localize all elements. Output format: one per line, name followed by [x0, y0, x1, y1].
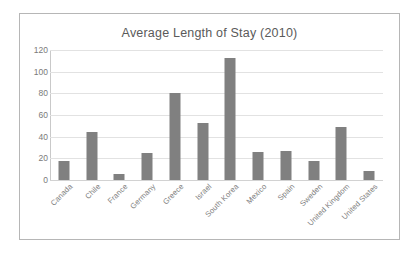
gridline — [50, 180, 383, 181]
bar[interactable] — [225, 58, 236, 180]
bar-slot — [78, 50, 106, 180]
bar-slot — [355, 50, 383, 180]
y-axis-tick-label: 100 — [22, 67, 48, 77]
bar[interactable] — [364, 171, 375, 180]
bar-slot — [244, 50, 272, 180]
bar[interactable] — [308, 161, 319, 180]
bar-series — [50, 50, 383, 180]
y-axis-tick-label: 60 — [22, 110, 48, 120]
bar-slot — [272, 50, 300, 180]
bar[interactable] — [253, 152, 264, 180]
bar[interactable] — [86, 132, 97, 180]
bar[interactable] — [169, 93, 180, 180]
bar[interactable] — [197, 123, 208, 180]
y-axis-tick-label: 120 — [22, 45, 48, 55]
bar-slot — [50, 50, 78, 180]
y-axis-tick-label: 0 — [22, 175, 48, 185]
bar[interactable] — [114, 174, 125, 181]
bar-slot — [217, 50, 245, 180]
bar[interactable] — [142, 153, 153, 180]
x-axis-tick-label: Mexico — [245, 182, 269, 206]
bar-slot — [133, 50, 161, 180]
bar-slot — [106, 50, 134, 180]
y-axis: 120100806040200 — [20, 50, 48, 180]
bar-slot — [328, 50, 356, 180]
bar-slot — [161, 50, 189, 180]
bar-slot — [189, 50, 217, 180]
x-axis-tick-label: Germany — [129, 182, 158, 211]
x-axis-tick-label: Canada — [49, 182, 75, 208]
x-axis-tick-label: Israel — [193, 182, 213, 202]
x-axis-tick-label: Sweden — [298, 182, 324, 208]
x-axis-tick-label: France — [106, 182, 130, 206]
chart-container: Average Length of Stay (2010) 1201008060… — [19, 13, 400, 240]
y-axis-tick-label: 20 — [22, 153, 48, 163]
bar[interactable] — [336, 127, 347, 180]
x-axis-tick-label: Spain — [276, 182, 296, 202]
x-axis-tick-label: Chile — [83, 182, 102, 201]
x-axis-tick-label: Greece — [161, 182, 185, 206]
y-axis-tick-label: 80 — [22, 88, 48, 98]
bar[interactable] — [280, 151, 291, 180]
bar[interactable] — [58, 161, 69, 180]
chart-title: Average Length of Stay (2010) — [20, 26, 399, 40]
bar-slot — [300, 50, 328, 180]
plot-area — [50, 50, 383, 180]
x-axis: CanadaChileFranceGermanyGreeceIsraelSout… — [50, 182, 383, 242]
y-axis-tick-label: 40 — [22, 132, 48, 142]
